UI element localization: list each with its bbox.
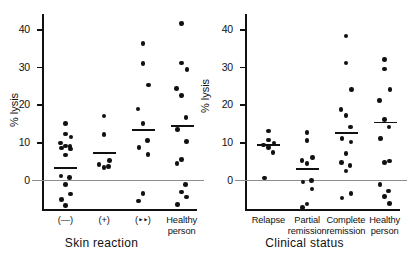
mean-line bbox=[93, 152, 116, 154]
category-label-2: (+) bbox=[98, 215, 109, 226]
data-point bbox=[59, 146, 64, 151]
data-point bbox=[349, 87, 354, 92]
data-point bbox=[266, 129, 271, 134]
y-tick-label-30: 30 bbox=[222, 61, 233, 73]
data-point bbox=[382, 117, 387, 122]
data-point bbox=[300, 158, 305, 163]
data-point bbox=[63, 203, 68, 208]
y-axis-label-right: % lysis bbox=[199, 79, 211, 113]
y-tick-label-0: 0 bbox=[227, 174, 233, 186]
data-point bbox=[262, 176, 267, 181]
data-point bbox=[305, 202, 310, 207]
data-point bbox=[63, 182, 68, 187]
data-point bbox=[184, 139, 189, 144]
data-point bbox=[377, 98, 382, 103]
data-point bbox=[340, 196, 345, 201]
data-point bbox=[141, 121, 146, 126]
y-tick-label-40: 40 bbox=[222, 23, 233, 35]
data-point bbox=[266, 138, 271, 143]
data-point bbox=[344, 169, 349, 174]
data-point bbox=[271, 150, 276, 155]
y-tick-label-0: 0 bbox=[24, 174, 30, 186]
data-point bbox=[106, 164, 111, 169]
data-point bbox=[344, 34, 349, 39]
data-point bbox=[266, 145, 271, 150]
data-point bbox=[382, 67, 387, 72]
data-point bbox=[261, 143, 266, 148]
data-point bbox=[344, 151, 349, 156]
data-point bbox=[67, 175, 72, 180]
data-point bbox=[378, 182, 383, 187]
y-tick-10 bbox=[240, 142, 246, 144]
data-point bbox=[58, 141, 63, 146]
y-tick-10 bbox=[37, 142, 43, 144]
y-tick-30 bbox=[37, 67, 43, 69]
category-label-2: Partial remission bbox=[288, 215, 327, 236]
mean-line bbox=[132, 129, 155, 131]
data-point bbox=[301, 180, 306, 185]
y-tick-label-10: 10 bbox=[222, 136, 233, 148]
category-label-3: Complete remission bbox=[326, 215, 365, 236]
data-point bbox=[146, 83, 151, 88]
data-point bbox=[174, 86, 179, 91]
data-point bbox=[184, 195, 189, 200]
mean-line bbox=[171, 125, 194, 127]
data-point bbox=[63, 132, 68, 137]
data-point bbox=[175, 161, 180, 166]
clinical-status-panel: % lysis 010203040RelapsePartial remissio… bbox=[203, 0, 406, 264]
mean-line bbox=[374, 122, 397, 124]
data-point bbox=[97, 162, 102, 167]
data-point bbox=[184, 115, 189, 120]
data-point bbox=[344, 61, 349, 66]
data-point bbox=[386, 189, 391, 194]
zero-reference-line bbox=[235, 180, 407, 182]
category-label-1: (—) bbox=[58, 215, 73, 226]
data-point bbox=[141, 61, 146, 66]
data-point bbox=[388, 87, 393, 92]
mean-line bbox=[54, 167, 77, 169]
y-tick-40 bbox=[37, 29, 43, 31]
y-tick-30 bbox=[240, 67, 246, 69]
data-point bbox=[179, 21, 184, 26]
data-point bbox=[310, 187, 315, 192]
category-label-1: Relapse bbox=[252, 215, 285, 226]
data-point bbox=[387, 201, 392, 206]
category-label-4: Healthy person bbox=[166, 215, 197, 236]
data-point bbox=[382, 194, 387, 199]
y-tick-40 bbox=[240, 29, 246, 31]
data-point bbox=[179, 61, 184, 66]
data-point bbox=[102, 114, 107, 119]
data-point bbox=[378, 136, 383, 141]
data-point bbox=[339, 107, 344, 112]
data-point bbox=[175, 202, 180, 207]
data-point bbox=[141, 191, 146, 196]
skin-reaction-panel: % lysis 010203040(—)(+)(‣‣)Healthy perso… bbox=[0, 0, 203, 264]
data-point bbox=[107, 158, 112, 163]
y-tick-label-20: 20 bbox=[222, 98, 233, 110]
data-point bbox=[59, 174, 64, 179]
data-point bbox=[305, 161, 310, 166]
y-tick-label-40: 40 bbox=[19, 23, 30, 35]
mean-line bbox=[335, 132, 358, 134]
data-point bbox=[382, 160, 387, 165]
data-point bbox=[136, 199, 141, 204]
data-point bbox=[146, 152, 151, 157]
y-tick-20 bbox=[37, 104, 43, 106]
data-point bbox=[382, 57, 387, 62]
data-point bbox=[68, 147, 73, 152]
mean-line bbox=[296, 168, 319, 170]
data-point bbox=[348, 125, 353, 130]
data-point bbox=[179, 190, 184, 195]
y-tick-label-20: 20 bbox=[19, 98, 30, 110]
data-point bbox=[179, 93, 184, 98]
data-point bbox=[183, 182, 188, 187]
data-point bbox=[305, 138, 310, 143]
data-point bbox=[340, 136, 345, 141]
plot-area-right: 010203040RelapsePartial remissionComplet… bbox=[245, 14, 400, 210]
data-point bbox=[339, 160, 344, 165]
data-point bbox=[102, 132, 107, 137]
data-point bbox=[63, 153, 68, 158]
data-point bbox=[136, 107, 141, 112]
category-label-4: Healthy person bbox=[369, 215, 400, 236]
